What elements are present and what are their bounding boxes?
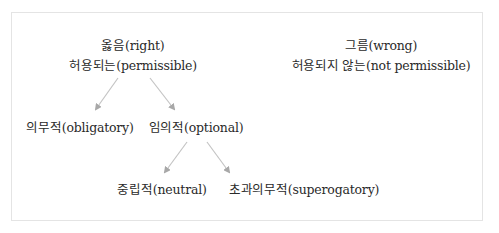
arrow-right-to-optional [150,78,174,109]
node-not-permissible-label: 허용되지 않는(not permissible) [292,58,471,74]
node-right-label: 옳음(right) [101,38,164,54]
node-optional-label: 임의적(optional) [149,120,244,136]
arrow-optional-to-neutral [165,142,187,172]
node-obligatory-label: 의무적(obligatory) [26,120,133,136]
node-permissible-label: 허용되는(permissible) [69,58,197,74]
node-supererogatory-label: 초과의무적(superogatory) [229,182,379,198]
node-neutral-label: 중립적(neutral) [117,182,206,198]
node-wrong-label: 그름(wrong) [345,38,417,54]
arrow-optional-to-supererogatory [207,142,229,172]
arrow-right-to-obligatory [96,78,118,109]
diagram-arrows [0,0,499,233]
